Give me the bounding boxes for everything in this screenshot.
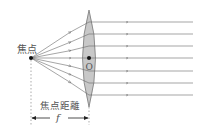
optical-center-dot <box>87 56 91 60</box>
refracted-parallel-rays <box>89 22 193 95</box>
focal-point-label: 焦点 <box>17 43 37 55</box>
focal-length-symbol: f <box>55 112 62 123</box>
focal-length-label: 焦点距離 <box>40 100 80 111</box>
focal-point-dot <box>29 56 33 60</box>
incident-rays <box>31 22 89 95</box>
optical-center-label: O <box>86 62 93 72</box>
lens-diagram: 焦点 O 焦点距離 f <box>0 0 205 137</box>
